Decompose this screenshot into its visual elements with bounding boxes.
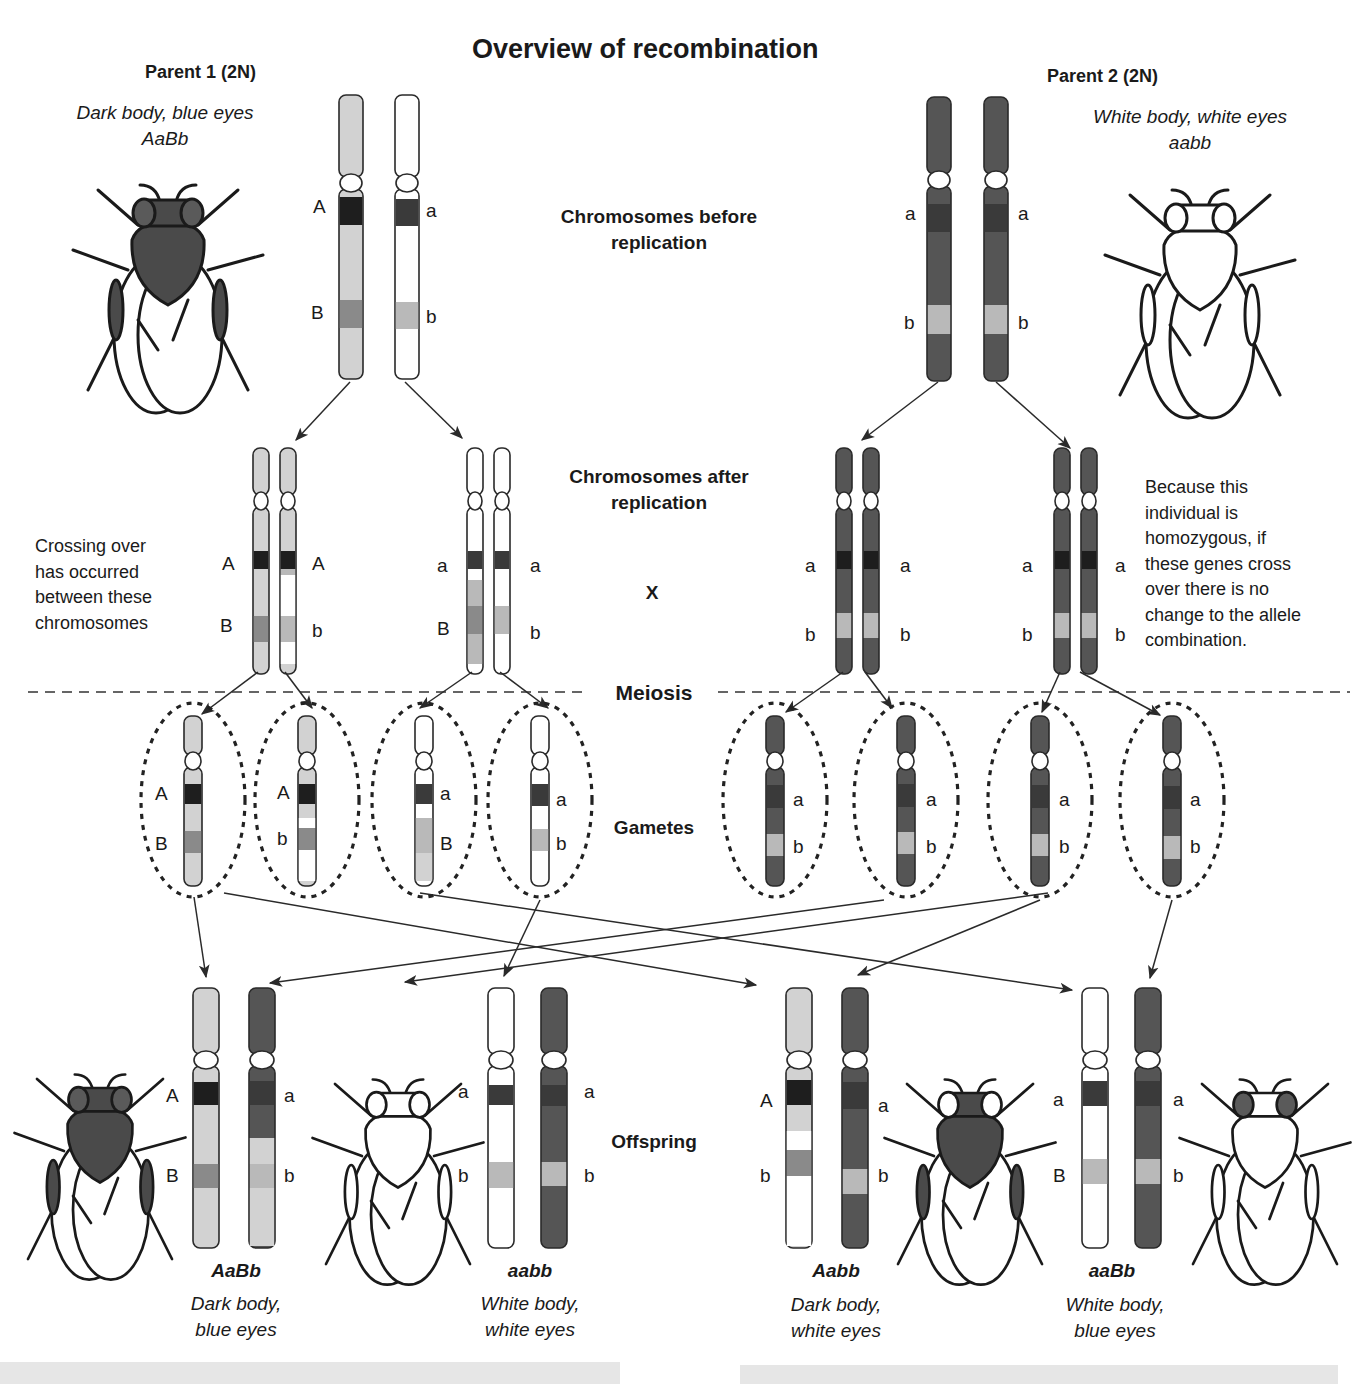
allele-label: b	[458, 1165, 469, 1187]
offspring-1-chromosomes	[193, 988, 275, 1248]
allele-label: b	[1190, 836, 1201, 858]
allele-label: a	[805, 555, 816, 577]
stage-after-line2: replication	[540, 490, 778, 516]
allele-label: b	[584, 1165, 595, 1187]
allele-label: b	[926, 836, 937, 858]
allele-label: a	[793, 789, 804, 811]
allele-label: B	[437, 618, 450, 640]
allele-label: B	[155, 833, 168, 855]
parent1-chromosomes-before	[339, 95, 419, 379]
stage-gametes: Gametes	[590, 815, 718, 841]
allele-label: a	[1053, 1089, 1064, 1111]
parent2-label: Parent 2 (2N)	[1047, 66, 1158, 87]
gamete-5	[766, 716, 784, 886]
gamete-3	[415, 716, 433, 886]
gamete-4	[531, 716, 549, 886]
allele-label: b	[1059, 836, 1070, 858]
parent2-chromosomes-before	[927, 97, 1008, 381]
footer-bar-right	[740, 1365, 1338, 1384]
parent2-genotype: aabb	[1070, 130, 1310, 156]
offspring-3-phenotype: Dark body, white eyes	[766, 1292, 906, 1344]
offspring-3-genotype: Aabb	[776, 1260, 896, 1282]
offspring-4-phenotype: White body, blue eyes	[1040, 1292, 1190, 1344]
allele-label: b	[900, 624, 911, 646]
offspring-1-fly	[14, 1075, 185, 1280]
parent2-fly-white-white-eyes	[1105, 190, 1295, 418]
parent1-phenotype: Dark body, blue eyes	[60, 100, 270, 126]
p2-replicated-right	[1054, 448, 1097, 674]
allele-label: a	[905, 203, 916, 225]
offspring-1-genotype: AaBb	[176, 1260, 296, 1282]
allele-label: b	[1022, 624, 1033, 646]
allele-label: b	[793, 836, 804, 858]
allele-label: b	[312, 620, 323, 642]
stage-offspring: Offspring	[590, 1129, 718, 1155]
allele-label: A	[312, 553, 325, 575]
allele-label: a	[1173, 1089, 1184, 1111]
allele-label: A	[155, 783, 168, 805]
parent2-phenotype: White body, white eyes	[1070, 104, 1310, 130]
offspring-2-genotype: aabb	[470, 1260, 590, 1282]
stage-before-line2: replication	[540, 230, 778, 256]
homozygous-note: Because this individual is homozygous, i…	[1145, 475, 1301, 654]
offspring-3-chromosomes	[786, 988, 868, 1248]
allele-label: B	[220, 615, 233, 637]
gamete-6	[897, 716, 915, 886]
p2-replicated-left	[836, 448, 879, 674]
p1-replicated-left	[253, 448, 296, 674]
allele-label: b	[878, 1165, 889, 1187]
allele-label: b	[530, 622, 541, 644]
allele-label: b	[277, 828, 288, 850]
allele-label: a	[584, 1081, 595, 1103]
allele-label: A	[760, 1090, 773, 1112]
stage-meiosis: Meiosis	[590, 680, 718, 706]
allele-label: A	[166, 1085, 179, 1107]
allele-label: B	[166, 1165, 179, 1187]
crossing-x-marker: X	[630, 580, 674, 606]
allele-label: B	[440, 833, 453, 855]
allele-label: b	[1173, 1165, 1184, 1187]
gamete-2	[298, 716, 316, 886]
parent1-label: Parent 1 (2N)	[145, 62, 256, 83]
allele-label: a	[440, 783, 451, 805]
allele-label: a	[878, 1095, 889, 1117]
chromosomes-layer	[184, 95, 1181, 1248]
offspring-3-fly	[885, 1080, 1056, 1285]
allele-label: a	[458, 1081, 469, 1103]
allele-label: b	[805, 624, 816, 646]
allele-label: a	[1115, 555, 1126, 577]
allele-label: a	[530, 555, 541, 577]
allele-label: a	[1022, 555, 1033, 577]
parent1-fly-dark-blue-eyes	[73, 185, 263, 413]
allele-label: a	[1018, 203, 1029, 225]
allele-label: b	[1018, 312, 1029, 334]
allele-label: a	[926, 789, 937, 811]
allele-label: a	[1190, 789, 1201, 811]
allele-label: A	[313, 196, 326, 218]
p1-replicated-right	[467, 448, 510, 674]
footer-bar-left	[0, 1362, 620, 1384]
allele-label: b	[426, 306, 437, 328]
allele-label: b	[284, 1165, 295, 1187]
crossing-over-note: Crossing over has occurred between these…	[35, 534, 152, 636]
allele-label: a	[284, 1085, 295, 1107]
stage-after-line1: Chromosomes after	[540, 464, 778, 490]
allele-label: b	[556, 833, 567, 855]
offspring-2-phenotype: White body, white eyes	[455, 1291, 605, 1343]
stage-before-line1: Chromosomes before	[540, 204, 778, 230]
offspring-4-genotype: aaBb	[1052, 1260, 1172, 1282]
allele-label: B	[311, 302, 324, 324]
allele-label: b	[1115, 624, 1126, 646]
diagram-title: Overview of recombination	[472, 34, 819, 65]
allele-label: a	[426, 200, 437, 222]
offspring-2-chromosomes	[488, 988, 567, 1248]
allele-label: A	[222, 553, 235, 575]
gamete-8	[1163, 716, 1181, 886]
allele-label: a	[437, 555, 448, 577]
offspring-4-chromosomes	[1082, 988, 1161, 1248]
allele-label: a	[556, 789, 567, 811]
allele-label: a	[900, 555, 911, 577]
allele-label: b	[760, 1165, 771, 1187]
offspring-4-fly	[1180, 1080, 1351, 1285]
allele-label: A	[277, 782, 290, 804]
